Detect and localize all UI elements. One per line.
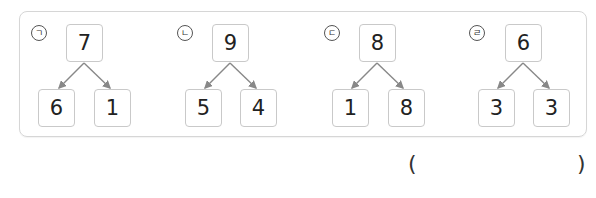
part-box-left: 3	[478, 89, 515, 127]
answer-open-paren: (	[408, 151, 417, 176]
part-box-left: 5	[185, 89, 222, 127]
decomposition-item-d: ㄹ 6 3 3	[441, 0, 581, 140]
part-box-right: 1	[94, 89, 131, 127]
decomposition-item-a: ㄱ 7 6 1	[0, 0, 140, 140]
decomposition-item-c: ㄷ 8 1 8	[296, 0, 436, 140]
answer-close-paren: )	[577, 151, 586, 176]
part-box-left: 1	[332, 89, 369, 127]
part-box-right: 8	[388, 89, 425, 127]
answer-blank[interactable]	[425, 152, 575, 180]
part-box-left: 6	[38, 89, 75, 127]
decomposition-item-b: ㄴ 9 5 4	[145, 0, 285, 140]
part-box-right: 3	[533, 89, 570, 127]
part-box-right: 4	[240, 89, 277, 127]
